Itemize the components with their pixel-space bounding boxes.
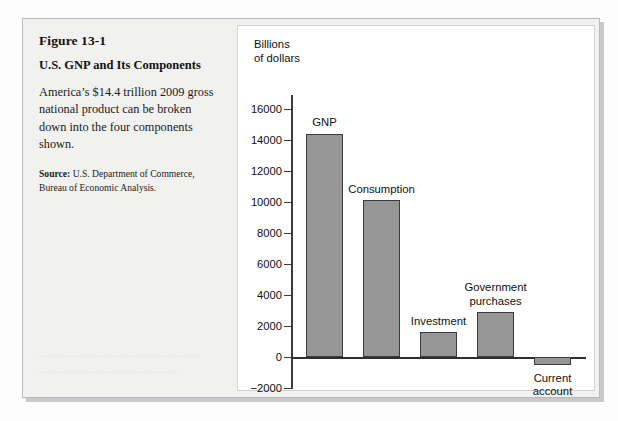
y-axis-tick-label: 8000 <box>238 227 282 239</box>
bar-chart-plot: 1600014000120001000080006000400020000−20… <box>238 26 594 390</box>
y-axis-tick-label: 6000 <box>238 258 282 270</box>
y-axis-tick-mark <box>284 388 292 389</box>
bar-label-investment: Investment <box>387 315 490 329</box>
y-axis-tick-mark <box>284 140 292 141</box>
figure-number: Figure 13-1 <box>39 33 221 49</box>
y-axis-tick-label: 10000 <box>238 196 282 208</box>
bleed-through-text-line-1: — ——— ——— —— ———— <box>37 349 227 361</box>
y-axis-tick-mark <box>284 326 292 327</box>
bar-label-consumption: Consumption <box>330 183 433 197</box>
y-axis-tick-mark <box>284 202 292 203</box>
y-axis-tick-mark <box>284 233 292 234</box>
bar-label-government-purchases: Government purchases <box>444 281 547 308</box>
y-axis-tick-label: 12000 <box>238 165 282 177</box>
bar-label-gnp: GNP <box>273 116 376 130</box>
y-axis-tick-mark <box>284 109 292 110</box>
figure-box: Figure 13-1 U.S. GNP and Its Components … <box>22 18 600 398</box>
figure-title: U.S. GNP and Its Components <box>39 58 221 74</box>
chart-panel: Billions of dollars 16000140001200010000… <box>237 25 595 391</box>
y-axis-tick-label: 16000 <box>238 103 282 115</box>
bar-label-current-account: Current account <box>501 372 604 399</box>
y-axis-tick-label: 14000 <box>238 134 282 146</box>
y-axis-tick-label: 4000 <box>238 289 282 301</box>
y-axis-tick-label: −2000 <box>238 382 282 394</box>
y-axis-tick-mark <box>284 171 292 172</box>
figure-caption-panel: Figure 13-1 U.S. GNP and Its Components … <box>23 19 237 397</box>
figure-description: America’s $14.4 trillion 2009 gross nati… <box>39 84 221 154</box>
bar-current-account <box>534 357 571 365</box>
y-axis-tick-mark <box>284 264 292 265</box>
bar-gnp <box>306 134 343 357</box>
bar-investment <box>420 332 457 357</box>
scanned-page: Figure 13-1 U.S. GNP and Its Components … <box>0 0 618 421</box>
bar-consumption <box>363 200 400 357</box>
y-axis-tick-mark <box>284 295 292 296</box>
y-axis-tick-label: 0 <box>238 351 282 363</box>
source-label: Source: <box>39 168 70 179</box>
figure-source: Source: U.S. Department of Commerce, Bur… <box>39 167 221 193</box>
y-axis-tick-mark <box>284 357 292 358</box>
y-axis-tick-label: 2000 <box>238 320 282 332</box>
bleed-through-text-line-2: ——— ———— ————— <box>37 365 227 377</box>
